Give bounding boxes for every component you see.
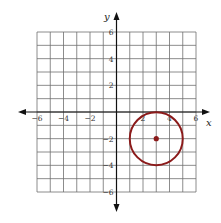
x-tick-label: −6 [31, 114, 42, 123]
coordinate-plane: −6−4−2246642−2−4−6 x y [0, 0, 221, 223]
y-tick-label: −4 [102, 161, 113, 170]
x-axis-label: x [206, 117, 212, 128]
y-tick-label: 2 [109, 81, 114, 90]
y-tick-label: 6 [109, 28, 114, 37]
y-tick-label: 4 [109, 55, 114, 64]
x-tick-label: −4 [58, 114, 69, 123]
x-tick-label: 6 [194, 114, 199, 123]
x-axis-right-arrow-icon [202, 109, 210, 115]
x-axis-left-arrow-icon [18, 109, 26, 115]
y-axis-up-arrow-icon [114, 12, 120, 20]
y-tick-label: −6 [102, 188, 113, 197]
x-tick-label: −2 [84, 114, 95, 123]
y-axis-label: y [103, 11, 110, 22]
y-tick-label: −2 [102, 135, 113, 144]
axes [18, 12, 210, 212]
center-point [154, 136, 159, 141]
y-axis-down-arrow-icon [114, 204, 120, 212]
